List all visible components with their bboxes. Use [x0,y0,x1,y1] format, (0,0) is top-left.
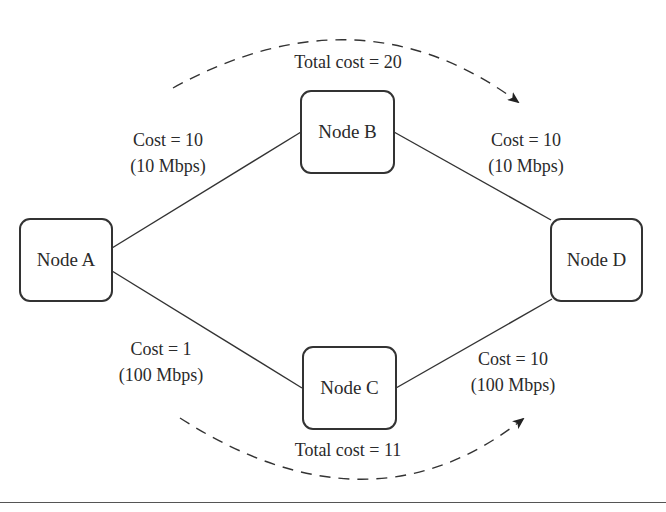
link-c-d-label: Cost = 10 (100 Mbps) [471,346,556,398]
link-a-c-bandwidth: (100 Mbps) [119,362,204,388]
link-b-d-label: Cost = 10 (10 Mbps) [488,127,564,179]
node-b-label: Node B [318,121,377,143]
link-b-d-cost: Cost = 10 [488,127,564,153]
bottom-rule-divider [0,502,666,503]
node-b: Node B [300,90,395,174]
link-b-d-bandwidth: (10 Mbps) [488,153,564,179]
path-top-total: Total cost = 20 [294,49,401,75]
node-d: Node D [550,218,643,302]
link-a-c-cost: Cost = 1 [119,336,204,362]
link-a-b-label: Cost = 10 (10 Mbps) [130,127,206,179]
node-c-label: Node C [320,377,379,399]
link-a-c-label: Cost = 1 (100 Mbps) [119,336,204,388]
node-d-label: Node D [567,249,627,271]
link-a-b-bandwidth: (10 Mbps) [130,153,206,179]
node-a: Node A [19,218,113,302]
node-a-label: Node A [37,249,96,271]
path-bottom-total: Total cost = 11 [295,437,402,463]
node-c: Node C [302,346,397,430]
link-c-d-bandwidth: (100 Mbps) [471,372,556,398]
link-c-d-cost: Cost = 10 [471,346,556,372]
link-a-b-cost: Cost = 10 [130,127,206,153]
